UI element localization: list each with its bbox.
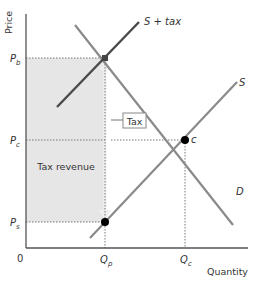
point-qp-ps xyxy=(101,218,109,226)
tax-label: Tax xyxy=(126,116,143,127)
x-axis-title: Quantity xyxy=(207,266,248,277)
quantity-qp-label: Qp xyxy=(100,254,113,268)
tax-diagram: Tax Tax revenue S + tax S D c Pb Pc Ps 0… xyxy=(0,0,264,290)
quantity-qc-label: Qc xyxy=(180,254,192,268)
price-pc-label: Pc xyxy=(10,135,20,149)
price-pb-label: Pb xyxy=(10,53,21,67)
d-label: D xyxy=(236,186,244,197)
point-pb-intersection xyxy=(102,55,108,61)
supply-curve xyxy=(90,82,237,238)
tax-revenue-label: Tax revenue xyxy=(36,161,95,172)
price-ps-label: Ps xyxy=(10,217,20,231)
s-plus-tax-label: S + tax xyxy=(144,16,181,27)
s-label: S xyxy=(239,77,246,88)
point-c-label: c xyxy=(191,134,197,145)
y-axis-title: Price xyxy=(3,11,14,34)
origin-label: 0 xyxy=(17,253,23,264)
point-c xyxy=(181,136,189,144)
